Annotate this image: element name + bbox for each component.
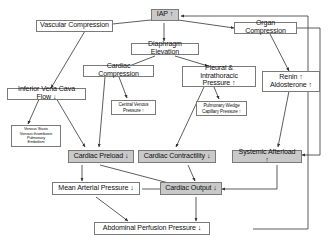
flowchart-canvas: IAP ↑ Vascular Compression Organ Compres… — [0, 0, 328, 244]
edge-afterload-co — [222, 165, 277, 189]
node-diaphragm-elevation[interactable]: Diaphragm Elevation — [131, 43, 199, 55]
edge-map-app — [96, 197, 128, 221]
node-venous-stasis-thrombosis-embolism-label: Venous Stasis Venous thrombosis Pulmonar… — [20, 127, 52, 145]
node-cardiac-preload-label: Cardiac Preload ↓ — [74, 153, 129, 161]
node-renin-aldosterone[interactable]: Renin ↑ Aldosterone ↑ — [262, 71, 320, 92]
node-abdominal-perfusion-pressure-label: Abdominal Perfusion Pressure ↓ — [103, 225, 201, 233]
flowchart-edges — [0, 0, 328, 244]
edge-renin-afterload — [278, 91, 289, 147]
node-mean-arterial-pressure-label: Mean Arterial Pressure ↓ — [58, 185, 133, 193]
node-cardiac-compression-label: Cardiac Compression — [87, 63, 150, 79]
node-pulmonary-wedge-capillary-pressure[interactable]: Pulmonary Wedge Capillary Pressure ↑ — [196, 101, 247, 116]
node-inferior-vena-cava-flow[interactable]: Inferior Vena Cava Flow ↓ — [7, 88, 86, 100]
node-pleural-intrathoracic-pressure[interactable]: Pleural & Intrathoracic Pressure ↑ — [182, 66, 256, 87]
edge-cardiaccomp-cvp — [119, 77, 127, 98]
node-pulmonary-wedge-capillary-pressure-label: Pulmonary Wedge Capillary Pressure ↑ — [202, 103, 241, 113]
node-cardiac-preload[interactable]: Cardiac Preload ↓ — [68, 150, 134, 163]
node-inferior-vena-cava-flow-label: Inferior Vena Cava Flow ↓ — [11, 86, 82, 102]
node-cardiac-compression[interactable]: Cardiac Compression — [83, 65, 154, 77]
edge-pleural-pcwp — [214, 87, 219, 99]
node-systemic-afterload[interactable]: Systemic Afterload ↑ — [232, 150, 302, 163]
edge-pleural-contractility — [176, 87, 204, 147]
node-cardiac-output[interactable]: Cardiac Output ↓ — [160, 182, 222, 195]
node-systemic-afterload-label: Systemic Afterload ↑ — [236, 149, 298, 165]
edge-app-iap — [181, 16, 308, 229]
node-cardiac-output-label: Cardiac Output ↓ — [165, 185, 217, 193]
node-central-venous-pressure-label: Central Venous Pressure ↑ — [118, 102, 148, 112]
node-mean-arterial-pressure[interactable]: Mean Arterial Pressure ↓ — [52, 182, 140, 195]
edge-cardiaccomp-preload — [99, 77, 105, 147]
node-central-venous-pressure[interactable]: Central Venous Pressure ↑ — [111, 100, 156, 115]
node-iap-label: IAP ↑ — [157, 11, 173, 19]
node-abdominal-perfusion-pressure[interactable]: Abdominal Perfusion Pressure ↓ — [94, 222, 210, 235]
node-pleural-intrathoracic-pressure-label: Pleural & Intrathoracic Pressure ↑ — [186, 65, 252, 89]
node-diaphragm-elevation-label: Diaphragm Elevation — [135, 41, 195, 57]
node-venous-stasis-thrombosis-embolism[interactable]: Venous Stasis Venous thrombosis Pulmonar… — [11, 125, 61, 147]
node-vascular-compression-label: Vascular Compression — [40, 22, 109, 30]
edge-contractility-co — [188, 165, 195, 181]
node-cardiac-contractility-label: Cardiac Contractility ↓ — [144, 153, 211, 161]
node-organ-compression-label: Organ Compression — [238, 20, 293, 36]
edge-vascular-ivc — [51, 31, 85, 88]
edge-organ-renin — [270, 34, 289, 71]
node-cardiac-contractility[interactable]: Cardiac Contractility ↓ — [138, 150, 216, 163]
node-renin-aldosterone-label: Renin ↑ Aldosterone ↑ — [270, 74, 312, 90]
edge-iap-organ — [178, 20, 234, 28]
node-iap[interactable]: IAP ↑ — [151, 9, 179, 21]
node-vascular-compression[interactable]: Vascular Compression — [36, 20, 113, 32]
node-organ-compression[interactable]: Organ Compression — [234, 22, 297, 34]
